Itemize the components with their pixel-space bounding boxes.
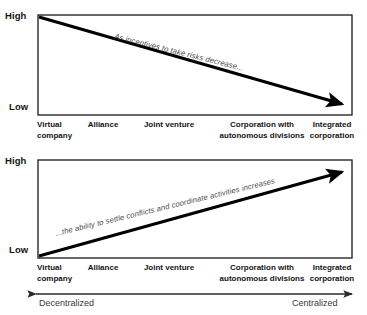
top-y-axis-low-label: Low bbox=[9, 101, 28, 112]
category-line-1: Corporation with bbox=[210, 263, 314, 274]
bottom-category-corporation-autonomous-divisions: Corporation with autonomous divisions bbox=[210, 263, 314, 284]
bottom-panel-group: ...the ability to settle conflicts and c… bbox=[38, 160, 352, 258]
bottom-y-axis-low-label: Low bbox=[9, 244, 28, 255]
bottom-category-joint-venture: Joint venture bbox=[136, 263, 202, 274]
top-panel-group: As incentives to take risks decrease... bbox=[38, 15, 352, 115]
category-line-1: Corporation with bbox=[210, 120, 314, 131]
category-line-1: Alliance bbox=[74, 263, 132, 274]
category-line-1: Joint venture bbox=[136, 263, 202, 274]
bottom-category-alliance: Alliance bbox=[74, 263, 132, 274]
organization-structure-tradeoff-figure: As incentives to take risks decrease... … bbox=[0, 0, 367, 315]
bottom-category-integrated-corporation: Integrated corporation bbox=[303, 263, 361, 284]
spectrum-left-label: Decentralized bbox=[39, 298, 94, 308]
category-line-1: Integrated bbox=[303, 263, 361, 274]
category-line-2: autonomous divisions bbox=[210, 131, 314, 142]
category-line-2: corporation bbox=[303, 131, 361, 142]
top-category-joint-venture: Joint venture bbox=[136, 120, 202, 131]
category-line-2: company bbox=[37, 274, 89, 285]
category-line-2: company bbox=[37, 131, 89, 142]
category-line-2: corporation bbox=[303, 274, 361, 285]
top-category-alliance: Alliance bbox=[74, 120, 132, 131]
spectrum-right-label: Centralized bbox=[292, 298, 338, 308]
category-line-1: Alliance bbox=[74, 120, 132, 131]
category-line-1: Integrated bbox=[303, 120, 361, 131]
bottom-y-axis-high-label: High bbox=[5, 155, 27, 166]
top-y-axis-high-label: High bbox=[5, 10, 27, 21]
top-category-corporation-autonomous-divisions: Corporation with autonomous divisions bbox=[210, 120, 314, 141]
category-line-2: autonomous divisions bbox=[210, 274, 314, 285]
top-category-integrated-corporation: Integrated corporation bbox=[303, 120, 361, 141]
category-line-1: Joint venture bbox=[136, 120, 202, 131]
